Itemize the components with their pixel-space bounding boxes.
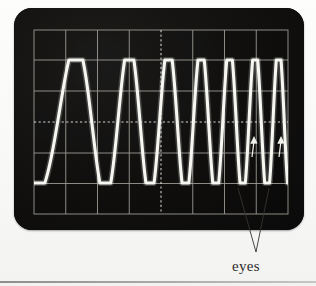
figure-root: eyes <box>0 0 316 286</box>
eyes-caption-label: eyes <box>232 258 260 275</box>
oscilloscope-bezel <box>14 8 304 230</box>
page-bottom-rule <box>0 281 316 283</box>
scope-display <box>14 8 304 230</box>
